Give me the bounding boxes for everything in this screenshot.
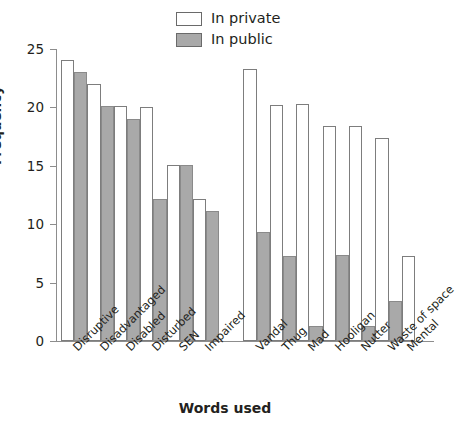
x-axis-title: Words used <box>0 400 450 416</box>
x-axis-tick-label-mad: Mad <box>305 327 332 354</box>
x-axis-tick-label-impaired: Impaired <box>202 308 248 354</box>
